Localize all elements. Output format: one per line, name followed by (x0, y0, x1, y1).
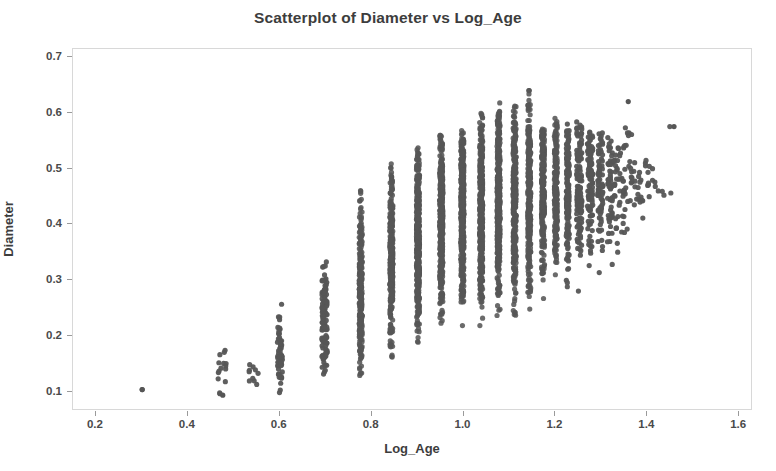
x-tick-mark (554, 411, 555, 416)
y-axis-title: Diameter (1, 201, 16, 257)
y-tick-label: 0.6 (46, 106, 62, 118)
y-tick-label: 0.5 (46, 162, 62, 174)
y-tick-label: 0.4 (46, 217, 62, 229)
scatterplot-figure: Scatterplot of Diameter vs Log_Age 0.20.… (0, 0, 776, 471)
scatter-points-svg (73, 49, 751, 409)
x-tick-label: 1.0 (455, 418, 471, 430)
y-tick-mark (67, 168, 72, 169)
x-tick-label: 0.6 (271, 418, 287, 430)
y-tick-mark (67, 56, 72, 57)
x-tick-mark (371, 411, 372, 416)
y-tick-mark (67, 223, 72, 224)
x-axis-title: Log_Age (72, 441, 752, 456)
plot-area (72, 48, 752, 410)
y-tick-label: 0.7 (46, 50, 62, 62)
x-tick-mark (95, 411, 96, 416)
y-tick-mark (67, 335, 72, 336)
x-tick-mark (279, 411, 280, 416)
y-tick-mark (67, 112, 72, 113)
y-tick-label: 0.3 (46, 273, 62, 285)
x-tick-mark (187, 411, 188, 416)
y-tick-mark (67, 279, 72, 280)
y-tick-label: 0.1 (46, 385, 62, 397)
x-tick-label: 1.2 (546, 418, 562, 430)
scatter-points-layer (73, 49, 751, 409)
x-tick-mark (646, 411, 647, 416)
x-tick-mark (738, 411, 739, 416)
x-tick-mark (463, 411, 464, 416)
chart-title: Scatterplot of Diameter vs Log_Age (0, 9, 776, 27)
x-tick-label: 0.2 (87, 418, 103, 430)
x-tick-label: 1.4 (638, 418, 654, 430)
x-tick-label: 0.4 (179, 418, 195, 430)
y-tick-label: 0.2 (46, 329, 62, 341)
x-tick-label: 0.8 (363, 418, 379, 430)
x-tick-label: 1.6 (730, 418, 746, 430)
y-tick-mark (67, 391, 72, 392)
